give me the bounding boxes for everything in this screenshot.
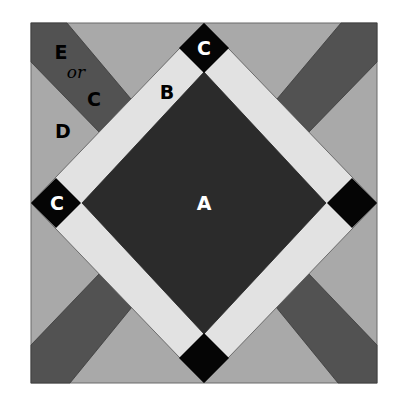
label-e-alt-c: C bbox=[87, 88, 101, 110]
label-b: B bbox=[160, 81, 174, 103]
label-c-left: C bbox=[50, 192, 64, 214]
label-d: D bbox=[55, 120, 71, 142]
label-or: or bbox=[67, 62, 86, 82]
label-c-top: C bbox=[197, 37, 211, 59]
label-a: A bbox=[197, 192, 212, 214]
label-e: E bbox=[55, 41, 68, 63]
quilt-block-diagram: A B C C E or C D bbox=[0, 0, 401, 400]
